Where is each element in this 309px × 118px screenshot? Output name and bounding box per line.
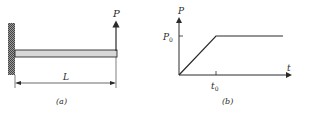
y-tick-label-p0: P0 xyxy=(162,32,173,43)
diagram-canvas: P L (a) P t P0 t0 (b) xyxy=(0,0,309,118)
beam xyxy=(15,50,117,57)
load-label: P xyxy=(112,8,120,19)
length-label: L xyxy=(62,72,69,82)
dimension-arrow-left-icon xyxy=(15,81,21,85)
load-curve xyxy=(179,36,283,75)
y-axis-label: P xyxy=(177,6,185,16)
caption-b: (b) xyxy=(222,97,233,106)
figure-b-load-history: P t P0 t0 (b) xyxy=(162,6,291,106)
figure-a-cantilever: P L (a) xyxy=(8,8,120,106)
x-tick-label-t0: t0 xyxy=(211,81,219,92)
caption-a: (a) xyxy=(56,97,67,106)
fixed-wall-support xyxy=(8,23,15,75)
dimension-arrow-right-icon xyxy=(110,81,116,85)
x-axis-label: t xyxy=(287,63,291,73)
